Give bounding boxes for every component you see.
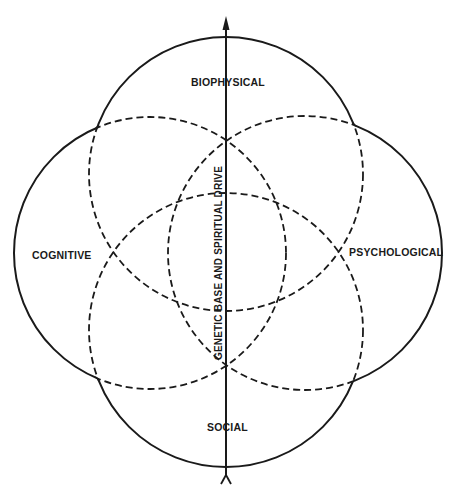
arrow-up-icon	[223, 16, 230, 30]
label-biophysical: BIOPHYSICAL	[191, 77, 265, 88]
label-social: SOCIAL	[207, 422, 248, 433]
label-psychological: PSYCHOLOGICAL	[349, 247, 443, 258]
four-circle-diagram: BIOPHYSICAL COGNITIVE PSYCHOLOGICAL SOCI…	[0, 0, 457, 498]
label-cognitive: COGNITIVE	[32, 250, 92, 261]
label-genetic-base-spiritual-drive: GENETIC BASE AND SPIRITUAL DRIVE	[214, 165, 224, 361]
fork-tail-icon	[221, 475, 231, 484]
